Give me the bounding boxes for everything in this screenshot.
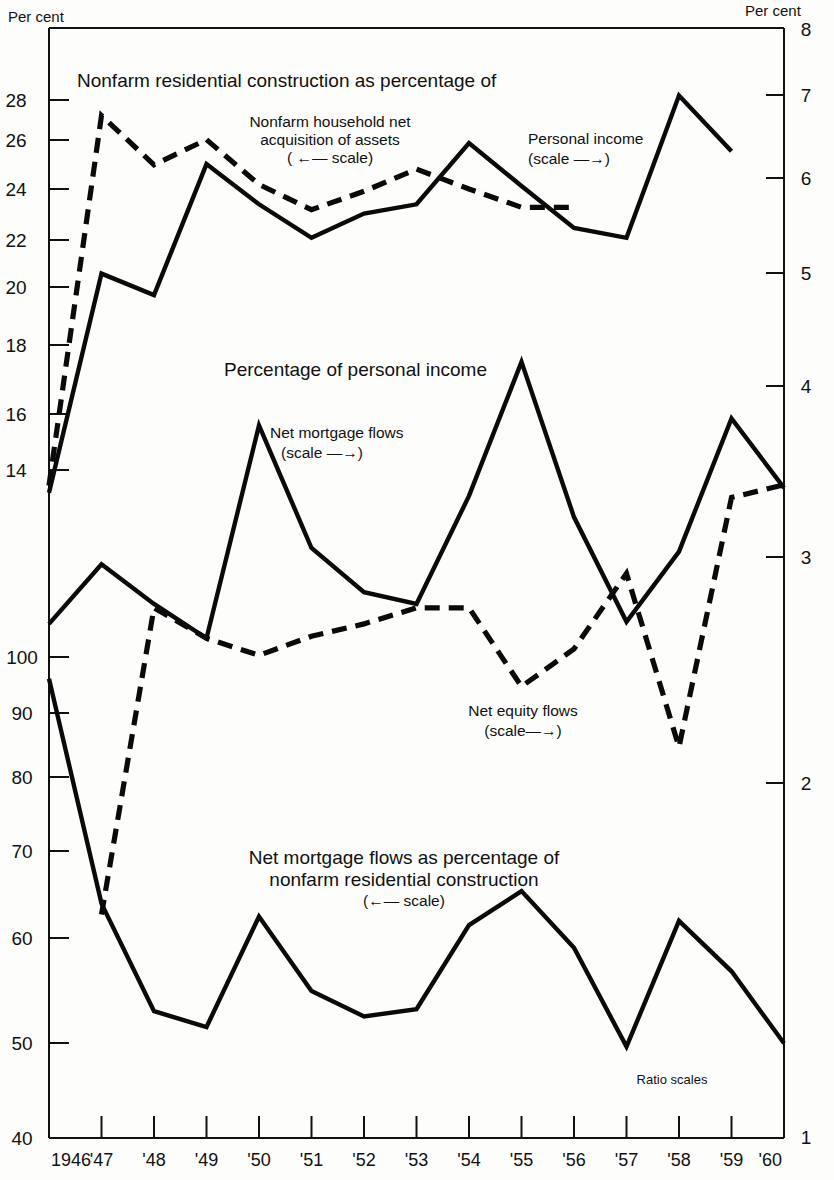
svg-text:40: 40 — [11, 1128, 32, 1149]
right-axis-ticks: 8 7 6 5 4 3 2 1 — [766, 19, 812, 1148]
x-axis-label: '47 — [90, 1150, 113, 1170]
svg-text:14: 14 — [5, 460, 27, 481]
x-axis-label: '53 — [405, 1150, 428, 1170]
annotation-net-equity-scale: (scale—→) — [484, 722, 562, 739]
right-axis-header: Per cent — [745, 2, 802, 19]
series-net-mortgage-flows — [49, 362, 784, 638]
title-bottom-line1: Net mortgage flows as percentage of — [249, 847, 560, 868]
x-axis-label: '49 — [195, 1150, 218, 1170]
title-top: Nonfarm residential construction as perc… — [77, 70, 497, 91]
svg-text:50: 50 — [11, 1033, 32, 1054]
svg-text:26: 26 — [5, 130, 26, 151]
chart-figure: Per cent Per cent 28 26 24 22 20 18 16 1… — [0, 0, 834, 1180]
x-axis-label: 1946 — [51, 1150, 91, 1170]
annotation-assets-line1: Nonfarm household net — [249, 113, 411, 130]
ratio-scales-note: Ratio scales — [637, 1072, 708, 1087]
x-axis-labels: 1946'47'48'49'50'51'52'53'54'55'56'57'58… — [51, 1150, 782, 1170]
annotation-net-mortgage: Net mortgage flows — [270, 424, 404, 441]
annotation-personal-income: Personal income — [528, 130, 643, 147]
svg-text:100: 100 — [6, 647, 38, 668]
svg-text:18: 18 — [5, 335, 26, 356]
x-axis-label: '51 — [300, 1150, 323, 1170]
annotation-assets-line2: acquisition of assets — [260, 131, 400, 148]
x-axis-label: '60 — [759, 1150, 782, 1170]
x-axis-label: '54 — [457, 1150, 480, 1170]
title-bottom-scale: (←— scale) — [363, 892, 445, 909]
x-axis-label: '52 — [352, 1150, 375, 1170]
annotation-net-equity: Net equity flows — [468, 702, 578, 719]
title-mid: Percentage of personal income — [224, 359, 487, 380]
left-axis-header: Per cent — [8, 8, 65, 25]
svg-text:7: 7 — [801, 85, 812, 106]
chart-canvas: Per cent Per cent 28 26 24 22 20 18 16 1… — [0, 0, 834, 1180]
svg-text:28: 28 — [5, 90, 26, 111]
annotation-assets-scale: ( ←— scale) — [287, 149, 373, 166]
svg-text:24: 24 — [5, 179, 27, 200]
svg-text:3: 3 — [801, 547, 812, 568]
x-axis-label: '58 — [667, 1150, 690, 1170]
x-axis-ticks — [102, 1116, 732, 1138]
svg-text:5: 5 — [801, 263, 812, 284]
svg-text:80: 80 — [11, 767, 32, 788]
left-axis-ticks: 28 26 24 22 20 18 16 14 100 90 80 70 60 … — [5, 90, 69, 1149]
svg-text:22: 22 — [5, 230, 26, 251]
svg-text:90: 90 — [11, 703, 32, 724]
title-bottom-line2: nonfarm residential construction — [269, 869, 538, 890]
svg-text:6: 6 — [801, 168, 812, 189]
annotation-net-mortgage-scale: (scale —→) — [281, 444, 363, 461]
svg-text:1: 1 — [801, 1127, 812, 1148]
plot-frame — [49, 28, 784, 1138]
svg-text:4: 4 — [801, 376, 812, 397]
x-axis-label: '57 — [615, 1150, 638, 1170]
svg-text:70: 70 — [11, 841, 32, 862]
svg-text:60: 60 — [11, 928, 32, 949]
x-axis-label: '50 — [247, 1150, 270, 1170]
x-axis-label: '56 — [562, 1150, 585, 1170]
svg-text:2: 2 — [801, 773, 812, 794]
annotation-personal-income-scale: (scale —→) — [528, 150, 610, 167]
x-axis-label: '55 — [510, 1150, 533, 1170]
x-axis-label: '59 — [720, 1150, 743, 1170]
x-axis-label: '48 — [142, 1150, 165, 1170]
svg-text:20: 20 — [5, 277, 26, 298]
svg-text:8: 8 — [801, 19, 812, 40]
svg-text:16: 16 — [5, 404, 26, 425]
